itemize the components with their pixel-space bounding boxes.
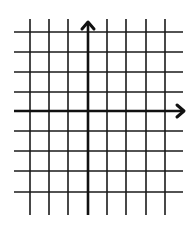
axes: [14, 22, 184, 215]
coordinate-grid: [0, 0, 191, 225]
vertical-grid-lines: [30, 19, 165, 215]
